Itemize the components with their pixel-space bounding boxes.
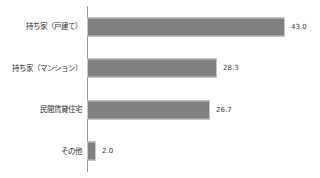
category-label-2: 民間賃貸住宅 (40, 89, 82, 131)
bar-track: 26.7 (87, 100, 232, 119)
bar-value-0: 43.0 (291, 23, 307, 30)
bar-track: 2.0 (87, 142, 113, 161)
bar-1[interactable] (87, 59, 217, 78)
bar-row: 28.3 (87, 48, 320, 90)
category-label-0: 持ち家（戸建て） (26, 6, 82, 48)
bar-track: 43.0 (87, 17, 307, 36)
bar-0[interactable] (87, 17, 285, 36)
bar-3[interactable] (87, 142, 96, 161)
plot-area: 43.0 28.3 26.7 2.0 (87, 6, 320, 172)
bar-track: 28.3 (87, 59, 239, 78)
category-label-1: 持ち家（マンション） (12, 48, 82, 90)
bar-row: 2.0 (87, 131, 320, 173)
horizontal-bar-chart: 43.0 28.3 26.7 2.0 持ち家（戸建て） 持ち家（マンション） 民… (0, 0, 320, 178)
bar-row: 26.7 (87, 89, 320, 131)
bar-value-1: 28.3 (223, 65, 239, 72)
bar-value-3: 2.0 (102, 148, 113, 155)
category-label-3: その他 (61, 131, 82, 173)
bar-2[interactable] (87, 100, 210, 119)
bar-row: 43.0 (87, 6, 320, 48)
bar-value-2: 26.7 (216, 106, 232, 113)
